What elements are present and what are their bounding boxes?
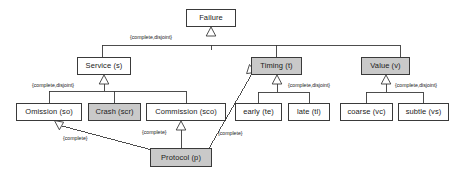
node-label: Value (v): [370, 62, 400, 70]
label-failure-constraint: {complete,disjoint}: [130, 35, 172, 40]
node-omission[interactable]: Omission (so): [16, 103, 82, 121]
node-subtle[interactable]: subtle (vs): [398, 103, 449, 121]
node-late[interactable]: late (tl): [288, 103, 330, 121]
generalization-arrow-failure: [206, 27, 216, 36]
node-label: Timing (t): [260, 62, 292, 70]
diagram-connectors: [0, 0, 461, 182]
node-commission[interactable]: Commission (sco): [146, 103, 226, 121]
label-value-constraint: {complete,disjoint}: [395, 83, 437, 88]
generalization-arrow-service: [99, 75, 109, 84]
generalization-arrow-value: [381, 75, 391, 84]
diagram-canvas: Failure Service (s) Timing (t) Value (v)…: [0, 0, 461, 182]
node-label: Failure: [199, 14, 223, 22]
label-protocol-commission: {complete}: [142, 130, 167, 135]
node-label: Protocol (p): [161, 154, 201, 162]
node-protocol[interactable]: Protocol (p): [150, 148, 212, 167]
node-label: Omission (so): [25, 108, 73, 116]
label-service-constraint: {complete,disjoint}: [32, 83, 74, 88]
node-timing[interactable]: Timing (t): [251, 57, 302, 75]
node-label: coarse (vc): [347, 108, 385, 116]
generalization-arrow-timing: [272, 75, 282, 84]
node-service[interactable]: Service (s): [77, 57, 131, 75]
node-label: late (tl): [297, 108, 321, 116]
generalization-arrow-omission: [55, 121, 64, 130]
label-timing-constraint: {complete,disjoint}: [288, 83, 330, 88]
label-protocol-omission: {complete}: [63, 136, 88, 141]
node-label: Service (s): [86, 62, 123, 70]
node-failure[interactable]: Failure: [186, 9, 236, 27]
node-early[interactable]: early (te): [235, 103, 282, 121]
label-protocol-timing: {complete}: [218, 131, 243, 136]
node-coarse[interactable]: coarse (vc): [340, 103, 393, 121]
generalization-arrow-commission: [176, 121, 186, 130]
node-label: subtle (vs): [406, 108, 442, 116]
node-label: Crash (scr): [95, 108, 133, 116]
node-label: early (te): [243, 108, 274, 116]
node-crash[interactable]: Crash (scr): [88, 103, 141, 121]
node-value[interactable]: Value (v): [361, 57, 410, 75]
node-label: Commission (sco): [155, 108, 217, 116]
